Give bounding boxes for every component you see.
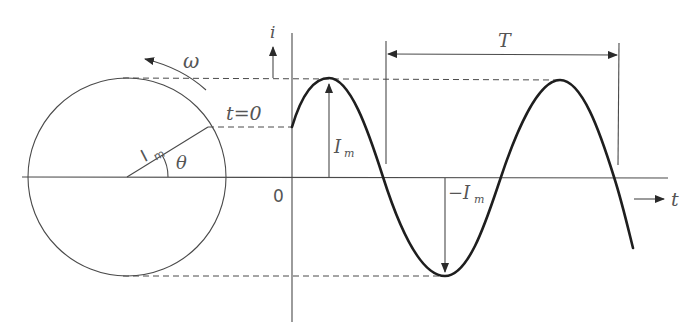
omega-label: ω (183, 49, 199, 73)
phasor-sine-diagram: ω i t=0 0 I m θ I m −I m T t (0, 0, 687, 332)
phasor-im-label: I m (137, 138, 167, 168)
neg-im-label: −I (448, 182, 471, 203)
time-axis (22, 177, 668, 178)
t-axis-label: t (671, 188, 679, 210)
peak-projection-line (123, 78, 560, 80)
im-peak-label: I (333, 136, 342, 157)
origin-label: 0 (273, 186, 284, 206)
im-peak-sub: m (344, 147, 354, 160)
i-axis-label: i (270, 22, 275, 42)
period-label: T (498, 29, 512, 51)
svg-text:I: I (137, 146, 151, 166)
theta-label: θ (176, 152, 187, 173)
period-arrow (388, 54, 617, 55)
neg-im-sub: m (474, 193, 484, 206)
period-right-tick (618, 43, 619, 165)
t0-label: t=0 (226, 102, 262, 124)
